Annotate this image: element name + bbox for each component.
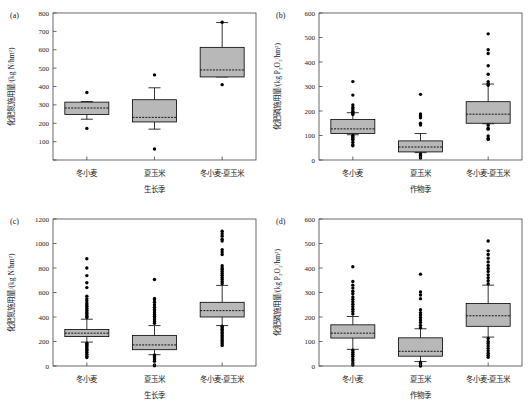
box-iqr <box>331 325 375 338</box>
x-category-label: 冬小麦-夏玉米 <box>466 168 511 178</box>
x-category-label: 夏玉米 <box>410 374 432 384</box>
x-category-label: 夏玉米 <box>410 168 432 178</box>
figure-root: (a)100200300400500600700800化肥氮施用量/(kg N/… <box>0 0 532 412</box>
box-plot-group <box>133 278 177 368</box>
x-category-label: 冬小麦 <box>342 168 364 178</box>
x-category-label: 冬小麦 <box>76 374 98 384</box>
box-iqr <box>399 338 443 356</box>
box-plot-group <box>133 73 177 150</box>
outlier-point <box>486 48 489 51</box>
outlier-point <box>486 127 489 130</box>
panel-tag: (c) <box>10 217 19 226</box>
outlier-point <box>220 344 223 347</box>
outlier-point <box>419 326 422 329</box>
outlier-point <box>419 93 422 96</box>
outlier-point <box>220 282 223 285</box>
y-tick-label: 200 <box>305 314 316 322</box>
outlier-point <box>419 290 422 293</box>
outlier-point <box>419 116 422 119</box>
y-tick-label: 500 <box>39 65 50 73</box>
y-tick-label: 600 <box>305 10 316 18</box>
outlier-point <box>419 123 422 126</box>
outlier-point <box>351 144 354 147</box>
outlier-point <box>85 286 88 289</box>
box-plot-group <box>466 239 510 359</box>
box-iqr <box>399 141 443 152</box>
outlier-point <box>486 84 489 87</box>
x-category-label: 夏玉米 <box>144 374 166 384</box>
y-tick-label: 1200 <box>35 216 50 224</box>
panel-tag: (b) <box>276 11 286 20</box>
y-tick-label: 600 <box>39 289 50 297</box>
y-tick-label: 400 <box>39 314 50 322</box>
outlier-point <box>486 73 489 76</box>
y-tick-label: 300 <box>39 101 50 109</box>
outlier-point <box>486 267 489 270</box>
outlier-point <box>85 274 88 277</box>
y-tick-label: 100 <box>305 132 316 140</box>
box-iqr <box>466 102 510 124</box>
box-plot-group <box>200 230 244 348</box>
x-category-label: 冬小麦 <box>76 168 98 178</box>
outlier-point <box>486 124 489 127</box>
box-plot-group <box>399 272 443 367</box>
box-plot-group <box>466 32 510 141</box>
outlier-point <box>486 64 489 67</box>
y-tick-label: 700 <box>39 28 50 36</box>
outlier-point <box>486 249 489 252</box>
x-category-label: 冬小麦 <box>342 374 364 384</box>
outlier-point <box>351 280 354 283</box>
outlier-point <box>351 283 354 286</box>
y-tick-label: 200 <box>39 338 50 346</box>
outlier-point <box>486 52 489 55</box>
outlier-point <box>153 147 156 150</box>
outlier-point <box>419 297 422 300</box>
y-tick-label: 500 <box>305 240 316 248</box>
x-axis-title: 作物季 <box>410 184 432 194</box>
y-tick-label: 1000 <box>35 240 50 248</box>
box-iqr <box>133 335 177 349</box>
outlier-point <box>85 281 88 284</box>
box-iqr <box>200 302 244 317</box>
y-tick-label: 300 <box>305 83 316 91</box>
x-category-label: 夏玉米 <box>144 168 166 178</box>
outlier-point <box>220 239 223 242</box>
outlier-point <box>486 264 489 267</box>
outlier-point <box>153 73 156 76</box>
outlier-point <box>85 316 88 319</box>
outlier-point <box>351 80 354 83</box>
outlier-point <box>85 356 88 359</box>
panel-d: (d)0100200300400500600化肥磷施用量/(kg P2O5/hm… <box>266 206 532 412</box>
y-axis-title: 化肥磷施用量/(kg P2O5/hm2) <box>272 248 283 336</box>
outlier-point <box>486 355 489 358</box>
outlier-point <box>486 270 489 273</box>
outlier-point <box>486 138 489 141</box>
y-tick-label: 400 <box>305 59 316 67</box>
y-tick-label: 500 <box>305 34 316 42</box>
outlier-point <box>351 312 354 315</box>
outlier-point <box>85 127 88 130</box>
panel-plot-c: (c)020040060080010001200化肥氮施用量/(kg N/hm2… <box>0 206 266 412</box>
box-plot-group <box>331 80 375 148</box>
outlier-point <box>486 279 489 282</box>
outlier-point <box>419 308 422 311</box>
box-iqr <box>466 304 510 327</box>
outlier-point <box>85 257 88 260</box>
y-axis-title: 化肥磷施用量/(kg P2O5/hm2) <box>272 42 283 130</box>
x-category-label: 冬小麦-夏玉米 <box>466 374 511 384</box>
outlier-point <box>85 266 88 269</box>
outlier-point <box>486 273 489 276</box>
outlier-point <box>351 93 354 96</box>
outlier-point <box>419 272 422 275</box>
box-plot-group <box>399 93 443 160</box>
y-tick-label: 200 <box>305 108 316 116</box>
plot-frame <box>53 13 256 160</box>
y-tick-label: 400 <box>39 83 50 91</box>
x-category-label: 冬小麦-夏玉米 <box>200 374 245 384</box>
outlier-point <box>153 278 156 281</box>
outlier-point <box>486 253 489 256</box>
x-axis-title: 作物季 <box>410 390 432 400</box>
outlier-point <box>486 337 489 340</box>
y-tick-label: 800 <box>39 10 50 18</box>
y-tick-label: 600 <box>39 46 50 54</box>
